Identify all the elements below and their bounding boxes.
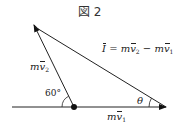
mv1-label: mv1 [107, 111, 126, 123]
origin-dot [71, 104, 77, 110]
mv2-label: mv2 [30, 61, 49, 73]
vector-triangle [0, 0, 177, 129]
impulse-symbol: I [102, 43, 106, 54]
impulse-vector-diagram: 図 2 I = mv2 − mv1 mv2 60° θ mv1 [0, 0, 177, 129]
impulse-label: I = mv2 − mv1 [102, 43, 173, 55]
angle-theta-arc [149, 98, 152, 107]
angle-60-label: 60° [45, 88, 61, 98]
angle-theta-label: θ [137, 95, 143, 106]
angle-60-arc [62, 96, 69, 107]
